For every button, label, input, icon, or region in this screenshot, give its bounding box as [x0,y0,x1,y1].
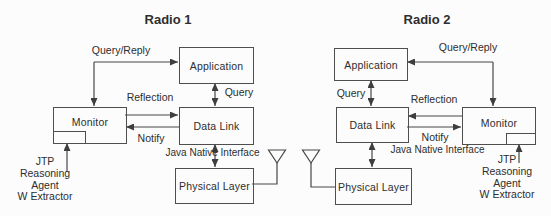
radio2-monitor-box: Monitor [462,107,536,145]
radio2-reflection-label: Reflection [409,93,459,105]
radio2-physical-layer-box: Physical Layer [335,168,412,205]
radio2-title: Radio 2 [392,12,462,27]
r1-antenna-feed-line [252,163,277,184]
radio2-physical-layer-label: Physical Layer [338,181,409,193]
radio1-monitor-subcomponent [53,131,86,144]
radio1-physical-layer-label: Physical Layer [179,180,250,192]
r2-antenna-triangle [303,150,320,163]
radio2-reasoning-agent-text: JTP Reasoning Agent W Extractor [470,154,544,201]
radio1-query-label: Query [219,86,259,98]
radio1-notify-label: Notify [135,132,167,144]
radio2-agent-line-extractor: W Extractor [470,189,544,201]
radio1-title: Radio 1 [133,12,203,27]
radio2-monitor-subcomponent [506,133,536,145]
radio1-data-link-label: Data Link [193,120,239,132]
radio2-query-label: Query [331,87,371,99]
radio2-notify-label: Notify [419,131,451,143]
radio1-monitor-box: Monitor [53,107,127,144]
radio1-physical-layer-box: Physical Layer [175,168,254,204]
radio2-agent-line-reasoning: Reasoning [470,166,544,178]
radio1-java-native-interface-label: Java Native Interface [164,147,261,158]
radio2-query-reply-label: Query/Reply [434,41,502,53]
radio1-query-reply-label: Query/Reply [85,44,157,56]
r2-antenna-feed-line [311,163,335,187]
radio2-application-box: Application [334,48,408,81]
radio2-data-link-box: Data Link [336,107,409,143]
radio2-application-label: Application [344,59,398,71]
radio1-agent-line-reasoning: Reasoning [8,168,82,180]
radio1-reflection-label: Reflection [125,91,175,103]
radio1-reasoning-agent-text: JTP Reasoning Agent W Extractor [8,156,82,203]
r1-antenna-triangle [269,150,286,163]
diagram-canvas: Radio 1 Radio 2 Application Data Link Mo… [0,0,551,216]
radio1-data-link-box: Data Link [179,107,254,145]
r2-antenna-icon [303,150,336,187]
radio1-application-box: Application [179,47,254,84]
radio2-data-link-label: Data Link [349,119,395,131]
radio1-agent-line-extractor: W Extractor [8,191,82,203]
radio1-application-label: Application [190,60,244,72]
